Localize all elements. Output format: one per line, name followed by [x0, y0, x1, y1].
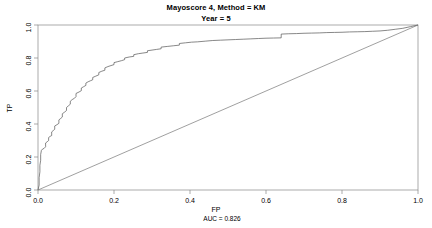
y-tick-label: 0.2 — [25, 155, 32, 165]
x-tick-label: 0.2 — [109, 197, 119, 204]
x-tick-label: 0.6 — [261, 197, 271, 204]
x-tick-label: 0.4 — [185, 197, 195, 204]
y-tick-label: 0.8 — [25, 56, 32, 66]
y-tick-label: 1.0 — [25, 23, 32, 33]
roc-plot-figure: Mayoscore 4, Method = KM Year = 5 0.00.2… — [0, 0, 432, 228]
y-tick-label: 0.0 — [25, 188, 32, 198]
x-axis-ticks: 0.00.20.40.60.81.0 — [33, 190, 423, 204]
auc-annotation: AUC = 0.826 — [203, 215, 241, 222]
chart-canvas: 0.00.20.40.60.81.0 0.00.20.40.60.81.0 FP… — [0, 0, 432, 228]
x-tick-label: 0.8 — [337, 197, 347, 204]
data-series-layer — [38, 25, 418, 190]
y-tick-label: 0.4 — [25, 122, 32, 132]
y-tick-label: 0.6 — [25, 89, 32, 99]
y-axis-title: TP — [6, 103, 13, 112]
x-tick-label: 0.0 — [33, 197, 43, 204]
reference-diagonal — [38, 25, 418, 190]
x-tick-label: 1.0 — [413, 197, 423, 204]
y-axis-ticks: 0.00.20.40.60.81.0 — [25, 23, 38, 198]
x-axis-title: FP — [212, 206, 221, 213]
